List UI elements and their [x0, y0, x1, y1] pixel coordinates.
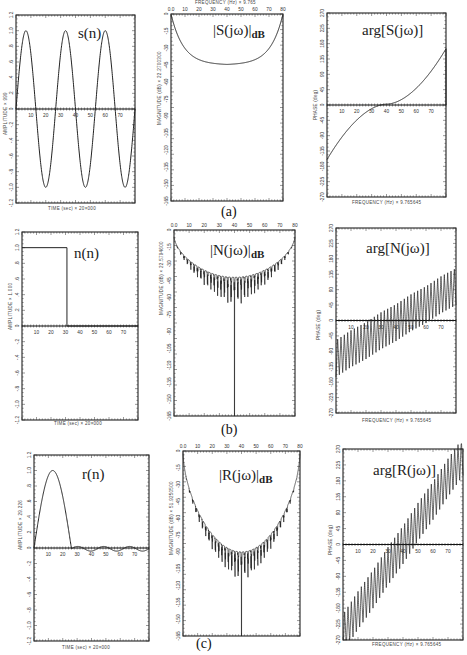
y-tick-label: -90	[167, 328, 172, 335]
x-tick-label: 60	[423, 325, 429, 330]
y-tick-label: 1.2	[9, 11, 14, 18]
y-tick-label: -225	[320, 177, 325, 187]
y-tick-label: -.6	[9, 153, 14, 159]
chart-title: arg[S(jω)]	[362, 22, 423, 39]
y-tick-label: 0	[176, 449, 181, 452]
y-tick-label: 45	[320, 87, 325, 93]
x-tick-label: 50	[415, 549, 421, 554]
y-tick-label: -45	[320, 117, 325, 124]
x-tick-label: 0.0	[171, 223, 178, 228]
y-tick-label: -.2	[15, 339, 20, 345]
y-tick-label: 1.2	[15, 228, 20, 235]
x-axis-label: FREQUENCY (Hz) × 9.765645	[352, 200, 421, 205]
y-tick-label: -15	[167, 243, 172, 250]
x-tick-label: 50	[92, 330, 98, 335]
x-tick-label: 70	[277, 223, 283, 228]
x-tick-label: 30	[74, 552, 80, 557]
panel-r-phase: PHASE (deg) 27022518013590450-45-90-135-…	[310, 430, 467, 655]
x-tick-label: 10	[195, 444, 201, 449]
y-tick-label: -135	[176, 597, 181, 607]
y-tick-label: -135	[329, 362, 334, 372]
y-tick-label: .6	[27, 499, 32, 503]
y-tick-label: -135	[164, 162, 169, 172]
y-tick-label: 90	[320, 71, 325, 77]
x-tick-label: 50	[88, 113, 94, 118]
y-tick-label: -.4	[9, 137, 14, 143]
y-tick-label: -1.2	[27, 637, 32, 646]
y-tick-label: .2	[15, 308, 20, 312]
y-tick-label: 0	[15, 324, 20, 327]
y-tick-label: -120	[167, 360, 172, 370]
x-tick-label: 60	[414, 109, 420, 114]
y-tick-label: -.4	[15, 354, 20, 360]
y-tick-label: -60	[176, 514, 181, 521]
chart-title: arg[N(jω)]	[366, 240, 430, 257]
x-tick-label: 60	[118, 552, 124, 557]
y-tick-label: -90	[336, 573, 341, 580]
y-tick-label: -90	[176, 548, 181, 555]
y-tick-label: -1.0	[27, 621, 32, 630]
x-axis-label: FREQUENCY (Hz) × 9.765645	[362, 418, 431, 423]
y-tick-label: -1.2	[15, 416, 20, 425]
y-tick-label: .8	[27, 484, 32, 488]
x-tick-label: 40	[89, 552, 95, 557]
y-tick-label: -105	[167, 343, 172, 353]
chart-title: s(n)	[78, 25, 101, 42]
x-tick-label: 80	[297, 444, 303, 449]
x-tick-label: 70	[121, 330, 127, 335]
y-tick-label: -165	[167, 411, 172, 421]
panel-r-mag: MAGNITUDE (dB) × 51.9250500 0-15-30-45-6…	[155, 430, 310, 655]
y-tick-label: -60	[167, 294, 172, 301]
y-tick-label: 135	[320, 55, 325, 63]
y-tick-label: -30	[176, 481, 181, 488]
x-tick-label: 70	[117, 113, 123, 118]
x-tick-label: 10	[34, 330, 40, 335]
panel-r-time: AMPLITUDE × 29.226 1.21.0.8.6.4.20-.2-.4…	[0, 430, 155, 655]
x-tick-label: 30	[63, 330, 69, 335]
x-axis-label: TIME (sec) × 20×000	[54, 421, 102, 426]
y-tick-label: .6	[9, 60, 14, 64]
x-tick-label: 60	[268, 444, 274, 449]
x-tick-label: 10	[182, 7, 188, 12]
plot-frame	[171, 14, 283, 201]
y-tick-label: -1.0	[15, 400, 20, 409]
y-tick-label: -75	[164, 95, 169, 102]
y-tick-label: -.2	[27, 560, 32, 566]
y-tick-label: -270	[336, 635, 341, 645]
y-tick-label: -30	[167, 260, 172, 267]
y-tick-label: -180	[329, 377, 334, 387]
y-tick-label: 0	[320, 103, 325, 106]
x-tick-label: 50	[103, 552, 109, 557]
y-tick-label: -.8	[9, 169, 14, 175]
y-tick-label: .4	[15, 292, 20, 296]
x-tick-label: 10	[186, 223, 192, 228]
y-tick-label: .8	[15, 261, 20, 265]
y-tick-label: .4	[27, 515, 32, 519]
y-tick-label: -75	[167, 311, 172, 318]
panel-n-mag: MAGNITUDE (dB) × 22.5794600 0-15-30-45-6…	[155, 215, 310, 440]
chart-title: r(n)	[82, 466, 105, 483]
y-tick-label: -1.0	[9, 183, 14, 192]
y-tick-label: -45	[164, 61, 169, 68]
y-tick-label: -120	[176, 580, 181, 590]
x-tick-label: 0.0	[180, 444, 187, 449]
x-tick-label: 50	[399, 109, 405, 114]
y-tick-label: 180	[329, 255, 334, 263]
y-tick-label: -180	[320, 161, 325, 171]
x-tick-label: 20	[354, 109, 360, 114]
x-tick-label: 70	[283, 444, 289, 449]
x-tick-label: 20	[48, 330, 54, 335]
y-tick-label: 0	[329, 319, 334, 322]
x-tick-label: 40	[393, 325, 399, 330]
y-tick-label: -150	[176, 614, 181, 624]
x-tick-label: 70	[266, 7, 272, 12]
x-tick-label: 10	[46, 552, 52, 557]
x-tick-label: 20	[370, 549, 376, 554]
y-tick-label: 180	[336, 477, 341, 485]
y-tick-label: -270	[320, 192, 325, 202]
y-tick-label: 135	[336, 492, 341, 500]
x-tick-label: 20	[60, 552, 66, 557]
x-tick-label: 70	[438, 325, 444, 330]
y-tick-label: -.8	[27, 607, 32, 613]
y-tick-label: -270	[329, 408, 334, 418]
